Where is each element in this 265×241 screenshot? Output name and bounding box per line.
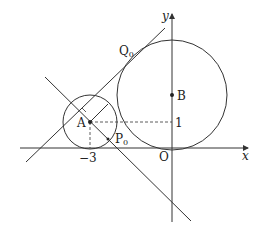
label-y-axis: y xyxy=(161,9,169,23)
label-x-axis: x xyxy=(242,149,249,163)
perpendicular-segment xyxy=(90,104,108,122)
point-p0 xyxy=(107,138,110,141)
point-a xyxy=(88,120,92,124)
normal-line xyxy=(45,77,191,221)
label-p0: P0 xyxy=(115,132,128,147)
geometry-diagram: y x O A B P0 Q0 −3 1 xyxy=(0,0,265,241)
tick-label-y: 1 xyxy=(175,116,183,130)
tick-label-x: −3 xyxy=(79,151,97,165)
label-origin: O xyxy=(159,150,169,164)
point-b xyxy=(170,93,174,97)
label-b: B xyxy=(177,89,186,103)
label-a: A xyxy=(76,116,86,130)
label-q0: Q0 xyxy=(119,44,134,59)
